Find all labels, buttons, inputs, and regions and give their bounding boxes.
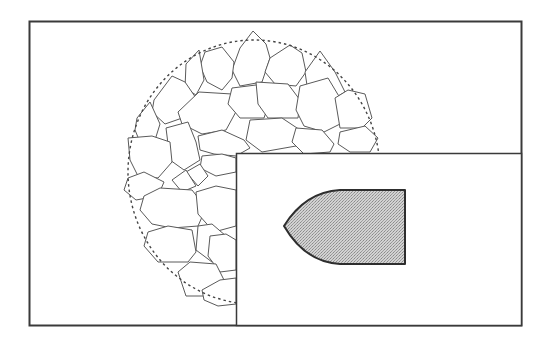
diagram-svg [0,0,548,343]
diagram-canvas [0,0,548,343]
fragment [296,78,340,132]
